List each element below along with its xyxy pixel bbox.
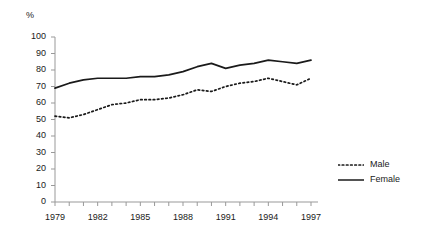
legend-swatch-female-icon — [338, 176, 364, 184]
series-line-female — [55, 60, 311, 88]
legend-label: Female — [370, 175, 400, 184]
series-line-male — [55, 78, 311, 118]
legend-swatch-male-icon — [338, 161, 364, 169]
line-chart: % 0102030405060708090100 197919821985198… — [0, 0, 423, 248]
chart-legend: MaleFemale — [338, 157, 422, 187]
plot-area — [0, 0, 423, 248]
legend-label: Male — [370, 160, 390, 169]
legend-item-male[interactable]: Male — [338, 157, 422, 172]
legend-item-female[interactable]: Female — [338, 172, 422, 187]
